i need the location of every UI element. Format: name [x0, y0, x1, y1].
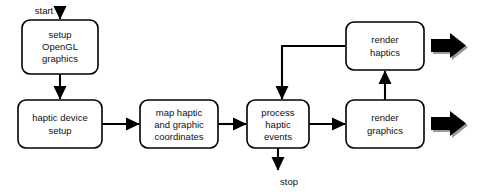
- node-label-line: map haptic: [156, 107, 203, 118]
- block-arrow-graphics-output-icon: [431, 111, 468, 138]
- node-label-line: render: [371, 112, 398, 123]
- block-arrow-body: [431, 111, 466, 136]
- node-haptic-device-setup[interactable]: haptic device setup: [18, 100, 102, 148]
- block-arrow-haptics-output-icon: [431, 33, 468, 60]
- node-label-line: graphics: [367, 125, 403, 136]
- node-render-haptics[interactable]: render haptics: [346, 22, 424, 70]
- node-process-haptic-events[interactable]: process haptic events: [247, 100, 309, 148]
- node-label-line: graphics: [42, 53, 78, 64]
- node-render-graphics[interactable]: render graphics: [346, 100, 424, 148]
- node-label-line: and graphic: [154, 119, 204, 130]
- label-stop: stop: [280, 176, 298, 187]
- node-label-line: events: [264, 131, 292, 142]
- node-map-haptic-and-graphic-coordinates[interactable]: map haptic and graphic coordinates: [140, 100, 218, 148]
- connector-render-haptics-feedback: [282, 46, 345, 99]
- node-label-line: render: [371, 34, 398, 45]
- node-label-line: coordinates: [154, 131, 203, 142]
- node-label-line: setup: [48, 125, 71, 136]
- label-start: start: [35, 5, 54, 16]
- node-setup-opengl-graphics[interactable]: setup OpenGL graphics: [22, 20, 98, 74]
- node-label-line: setup: [48, 29, 71, 40]
- node-label-line: haptic device: [32, 112, 87, 123]
- node-label-line: haptic: [265, 119, 291, 130]
- connectors: [60, 6, 385, 170]
- node-label-line: haptics: [370, 47, 400, 58]
- node-label-line: OpenGL: [42, 41, 78, 52]
- flowchart-canvas: setup OpenGL graphics haptic device setu…: [0, 0, 484, 195]
- block-arrow-body: [431, 33, 466, 58]
- flowchart-svg: setup OpenGL graphics haptic device setu…: [0, 0, 484, 195]
- node-label-line: process: [261, 107, 295, 118]
